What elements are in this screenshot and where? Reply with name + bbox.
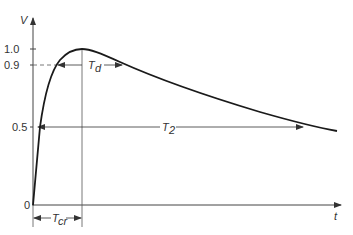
tcr-subscript: cr <box>58 215 69 227</box>
y-tick-0: 0 <box>24 199 30 211</box>
td-subscript: d <box>95 62 102 74</box>
y-tick-0-9: 0.9 <box>4 59 19 71</box>
impulse-voltage-diagram: V t 1.0 0.9 0.5 0 T d T 2 T cr <box>0 0 353 235</box>
y-tick-0-5: 0.5 <box>12 121 27 133</box>
t2-subscript: 2 <box>168 124 175 136</box>
t2-dimension: T 2 <box>38 121 303 136</box>
y-axis-label: V <box>20 14 29 26</box>
y-tick-1-0: 1.0 <box>4 43 19 55</box>
tcr-dimension: T cr <box>34 212 81 227</box>
td-dimension: T d <box>58 59 122 74</box>
x-axis-label: t <box>334 210 338 222</box>
